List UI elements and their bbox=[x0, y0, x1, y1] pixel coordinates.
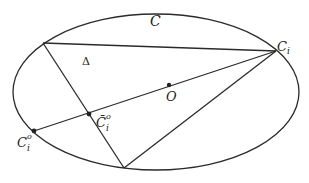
label-ci-bar-o-sup: o bbox=[106, 112, 111, 121]
point-o bbox=[167, 83, 171, 87]
label-curve-c: C bbox=[150, 13, 161, 29]
ellipse-triangle-diagram: C Δ O C i C̄ o i C o i bbox=[0, 0, 309, 183]
triangle-side-top bbox=[43, 43, 276, 51]
label-ci-bar-o: C̄ bbox=[96, 115, 106, 130]
triangle-side-right bbox=[124, 51, 276, 168]
point-ci-bar-o bbox=[87, 112, 92, 117]
diameter-line bbox=[34, 51, 276, 131]
label-ci-o-sup: o bbox=[27, 132, 32, 141]
label-ci-bar-o-sub: i bbox=[106, 123, 109, 133]
label-ci-sub: i bbox=[287, 46, 290, 56]
label-o: O bbox=[166, 89, 177, 104]
label-triangle: Δ bbox=[82, 55, 90, 68]
label-ci: C bbox=[277, 39, 287, 54]
label-ci-o-sub: i bbox=[27, 143, 30, 153]
point-ci-o bbox=[32, 129, 37, 134]
label-ci-o: C bbox=[17, 135, 27, 150]
ellipse-c bbox=[13, 14, 299, 170]
